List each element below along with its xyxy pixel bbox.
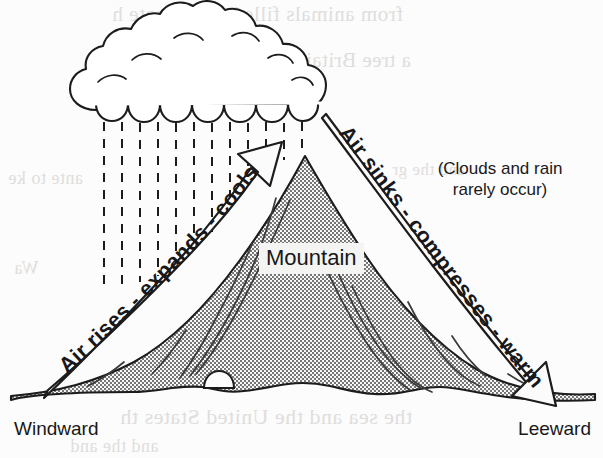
clouds-rain-note: (Clouds and rain rarely occur) — [411, 158, 589, 200]
mountain-label: Mountain — [259, 243, 364, 274]
rain-cloud — [70, 1, 326, 122]
note-line-1: (Clouds and rain — [438, 159, 563, 178]
note-line-2: rarely occur) — [453, 180, 547, 199]
leeward-label: Leeward — [518, 418, 591, 440]
windward-label: Windward — [14, 418, 98, 440]
orographic-rain-shadow-figure: from animals filled the climate h a tree… — [0, 0, 603, 458]
